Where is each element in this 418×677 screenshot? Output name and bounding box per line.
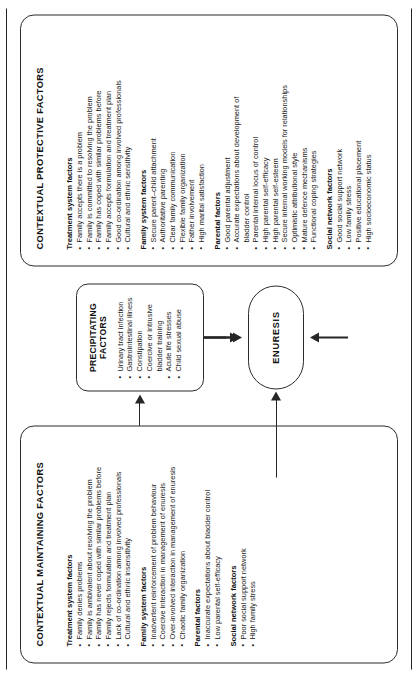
list-item: Lack of co-ordination among involved pro…: [114, 436, 124, 646]
list-item: Mature defence mechanisms: [300, 25, 310, 249]
connector-into-enuresis-left: [276, 399, 277, 477]
protective-groups: Treatment system factors Family accepts …: [65, 25, 379, 249]
panel-contextual-protective-factors: CONTEXTUAL PROTECTIVE FACTORS Treatment …: [20, 14, 398, 266]
list-item-continuation: bladder training: [155, 284, 165, 378]
list-item: Gastrointestinal illness: [125, 284, 135, 378]
panel-title-maintaining: CONTEXTUAL MAINTAINING FACTORS: [35, 461, 45, 646]
group-parental-protective: Parental factors Good parental adjustmen…: [213, 25, 319, 249]
list-item: Coercive or intrusive: [145, 284, 155, 378]
list-item: Clear family communication: [168, 25, 178, 249]
connector-into-enuresis-bottom: [318, 336, 348, 337]
list-item: Positive educational placement: [354, 25, 364, 249]
diagram-canvas: CONTEXTUAL MAINTAINING FACTORS Treatment…: [0, 0, 418, 677]
group-heading: Family system factors: [139, 436, 148, 646]
list-item: High parental self-efficacy: [261, 25, 271, 249]
group-family-system-protective: Family system factors Secure parent–chil…: [139, 25, 207, 249]
group-heading: Treatment system factors: [65, 436, 74, 646]
group-heading: Family system factors: [139, 25, 148, 249]
list-item: High socioeconomic status: [364, 25, 374, 249]
list-item: Over-involved interaction in management …: [168, 436, 178, 646]
group-treatment-system-maintaining: Treatment system factors Family denies p…: [65, 436, 133, 646]
list-item: Family has coped with similar problems b…: [94, 25, 104, 249]
list-item: Family rejects formulation and treatment…: [104, 436, 114, 646]
list-item: Inadvertent reinforcement of problem beh…: [149, 436, 159, 646]
group-heading: Parental factors: [193, 436, 202, 646]
arrowhead-into-enuresis-bottom: [310, 332, 319, 342]
factor-list: Good social support network Low family s…: [335, 25, 374, 249]
factor-list: Good parental adjustment Accurate expect…: [223, 25, 319, 249]
group-heading: Treatment system factors: [65, 25, 74, 249]
page-rule-top: [6, 8, 7, 669]
list-item: Flexible family organization: [178, 25, 188, 249]
factor-list: Family accepts there is a problem Family…: [75, 25, 133, 249]
list-item: Secure internal working models for relat…: [280, 25, 290, 249]
group-heading: Parental factors: [213, 25, 222, 249]
list-item: Family accepts formulation and treatment…: [104, 25, 114, 249]
list-item: High marital satisfaction: [197, 25, 207, 249]
factor-list: Family denies problems Family is ambival…: [75, 436, 133, 646]
list-item: Low parental self-efficacy: [213, 436, 223, 646]
panel-precipitating-factors: PRECIPITATING FACTORS Urinary tract infe…: [76, 283, 204, 391]
node-enuresis-label: ENURESIS: [271, 311, 281, 363]
arrowhead-into-enuresis-left: [271, 391, 281, 400]
list-item: Optimistic attributional style: [290, 25, 300, 249]
factor-list: Secure parent–child attachment Authorita…: [149, 25, 207, 249]
list-item: Functional coping strategies: [309, 25, 319, 249]
list-item: Family accepts there is a problem: [75, 25, 85, 249]
factor-list-precipitating: Urinary tract infection Gastrointestinal…: [116, 284, 184, 390]
arrowhead-into-enuresis-top: [233, 332, 242, 342]
panel-title-precipitating-line2: FACTORS: [98, 316, 108, 359]
connector-left-edge-spine: [139, 401, 140, 425]
list-item: Coercive interaction in management of en…: [158, 436, 168, 646]
list-item: Family is ambivalent about resolving the…: [85, 436, 95, 646]
list-item: Family has never coped with similar prob…: [94, 436, 104, 646]
list-item: Inaccurate expectations about bladder co…: [203, 436, 213, 646]
list-item: Constipation: [135, 284, 145, 378]
group-parental-maintaining: Parental factors Inaccurate expectations…: [193, 436, 222, 646]
group-treatment-system-protective: Treatment system factors Family accepts …: [65, 25, 133, 249]
list-item: Chaotic family organization: [178, 436, 188, 646]
factor-list: Inaccurate expectations about bladder co…: [203, 436, 222, 646]
list-item: Child sexual abuse: [174, 284, 184, 378]
connector-into-enuresis-top: [204, 336, 234, 337]
list-item: Authoritative parenting: [158, 25, 168, 249]
panel-contextual-maintaining-factors: CONTEXTUAL MAINTAINING FACTORS Treatment…: [20, 425, 398, 663]
list-item: Urinary tract infection: [116, 284, 126, 378]
list-item: Poor social support network: [239, 436, 249, 646]
page-rule-bottom: [411, 8, 412, 669]
list-item: Parental internal locus of control: [251, 25, 261, 249]
list-item: Acute life stresses: [164, 284, 174, 378]
list-item: Cultural and ethnic sensitivity: [123, 25, 133, 249]
list-item: Family is committed to resolving the pro…: [85, 25, 95, 249]
list-item: High family stress: [248, 436, 258, 646]
list-item: Good co-ordination among involved profes…: [114, 25, 124, 249]
factor-list: Poor social support network High family …: [239, 436, 258, 646]
figure-rotator: CONTEXTUAL MAINTAINING FACTORS Treatment…: [0, 0, 418, 677]
list-item: Good parental adjustment: [223, 25, 233, 249]
maintaining-groups: Treatment system factors Family denies p…: [65, 436, 264, 646]
list-item: Father involvement: [187, 25, 197, 249]
group-family-system-maintaining: Family system factors Inadvertent reinfo…: [139, 436, 188, 646]
list-item: Low family stress: [344, 25, 354, 249]
panel-title-precipitating-line1: PRECIPITATING: [88, 303, 98, 372]
group-social-network-protective: Social network factors Good social suppo…: [325, 25, 374, 249]
panel-title-protective: CONTEXTUAL PROTECTIVE FACTORS: [35, 67, 45, 249]
group-heading: Social network factors: [325, 25, 334, 249]
list-item: Secure parent–child attachment: [149, 25, 159, 249]
list-item: Good social support network: [335, 25, 345, 249]
node-enuresis: ENURESIS: [248, 285, 304, 389]
list-item: High parental self-esteem: [271, 25, 281, 249]
group-heading: Social network factors: [229, 436, 238, 646]
list-item: Accurate expectations about development …: [232, 25, 242, 249]
list-item-continuation: bladder control: [242, 25, 252, 249]
factor-list: Inadvertent reinforcement of problem beh…: [149, 436, 188, 646]
list-item: Cultural and ethnic insensitivity: [123, 436, 133, 646]
panel-title-precipitating: PRECIPITATING FACTORS: [88, 284, 109, 390]
list-item: Family denies problems: [75, 436, 85, 646]
group-social-network-maintaining: Social network factors Poor social suppo…: [229, 436, 258, 646]
